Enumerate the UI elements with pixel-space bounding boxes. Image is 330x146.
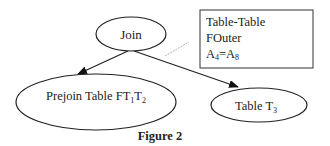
node-join: Join [96, 17, 166, 51]
figure-caption: Figure 2 [138, 129, 183, 143]
annotation-line-1: Table-Table [206, 14, 265, 30]
annotation-line-3: A4=A8 [206, 46, 265, 62]
node-join-label: Join [120, 27, 142, 42]
node-table3-label: Table T3 [235, 99, 277, 115]
annotation-link-line [165, 42, 189, 56]
node-prejoin-table: Prejoin Table FT1T2 [16, 74, 176, 130]
annotation-line-2: FOuter [206, 30, 265, 46]
node-table-t3: Table T3 [211, 88, 307, 122]
diagram-canvas: Join Prejoin Table FT1T2 Table T3 Figure… [0, 0, 330, 146]
edge-join-to-prejoin [78, 51, 128, 74]
annotation-text: Table-Table FOuter A4=A8 [206, 14, 265, 62]
